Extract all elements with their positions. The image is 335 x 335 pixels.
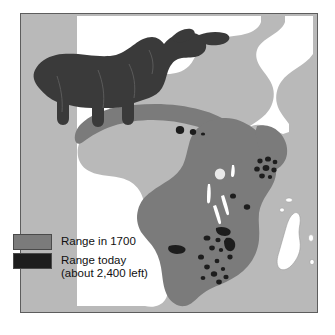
- range-today-spot: [176, 126, 184, 134]
- range-today-spot: [221, 267, 225, 271]
- range-today-spot: [227, 255, 232, 260]
- range-today-spot: [268, 175, 272, 179]
- range-today-spot: [215, 238, 220, 242]
- range-today-spot: [257, 159, 262, 164]
- lake-victoria: [215, 168, 225, 179]
- range-today-spot: [230, 193, 236, 198]
- legend-swatch-range-1700: [13, 234, 52, 250]
- range-today-spot: [198, 254, 204, 259]
- range-today-spot: [215, 259, 220, 263]
- socotra-island: [286, 198, 293, 202]
- range-today-spot: [190, 129, 196, 135]
- mascarene-island-b: [310, 259, 314, 264]
- legend-label-range-today-line1: Range today: [61, 254, 126, 266]
- range-today-spot: [259, 174, 265, 179]
- range-today-spot: [201, 276, 206, 280]
- legend-label-range-1700-line1: Range in 1700: [61, 235, 136, 247]
- rhino-range-map-figure: Range in 1700 Range today (about 2,400 l…: [0, 0, 335, 335]
- range-today-spot: [273, 160, 278, 164]
- range-today-spot: [204, 235, 211, 240]
- range-today-spot: [223, 275, 228, 279]
- lake-tanganyika: [207, 184, 211, 203]
- legend-label-range-today: Range today (about 2,400 left): [61, 253, 148, 279]
- legend-label-range-1700: Range in 1700: [61, 234, 136, 248]
- mascarene-island-a: [308, 235, 313, 242]
- range-today-spot: [211, 271, 217, 277]
- range-today-spot: [216, 280, 222, 285]
- range-today-spot: [201, 133, 205, 136]
- legend-swatch-range-today: [13, 253, 52, 269]
- legend-label-range-today-line2: (about 2,400 left): [61, 267, 148, 280]
- range-today-spot: [254, 166, 260, 171]
- legend-item-range-1700: Range in 1700: [13, 234, 193, 250]
- map-legend: Range in 1700 Range today (about 2,400 l…: [13, 234, 193, 282]
- comoros-island: [280, 208, 285, 212]
- legend-item-range-today: Range today (about 2,400 left): [13, 253, 193, 279]
- range-today-spot: [244, 204, 250, 210]
- range-today-spot: [219, 248, 223, 252]
- range-today-spot: [265, 156, 271, 161]
- range-today-spot: [204, 265, 210, 270]
- range-today-spot: [271, 168, 276, 173]
- range-today-spot: [263, 165, 270, 171]
- madagascar-shape: [277, 213, 300, 270]
- range-today-spot: [209, 246, 215, 251]
